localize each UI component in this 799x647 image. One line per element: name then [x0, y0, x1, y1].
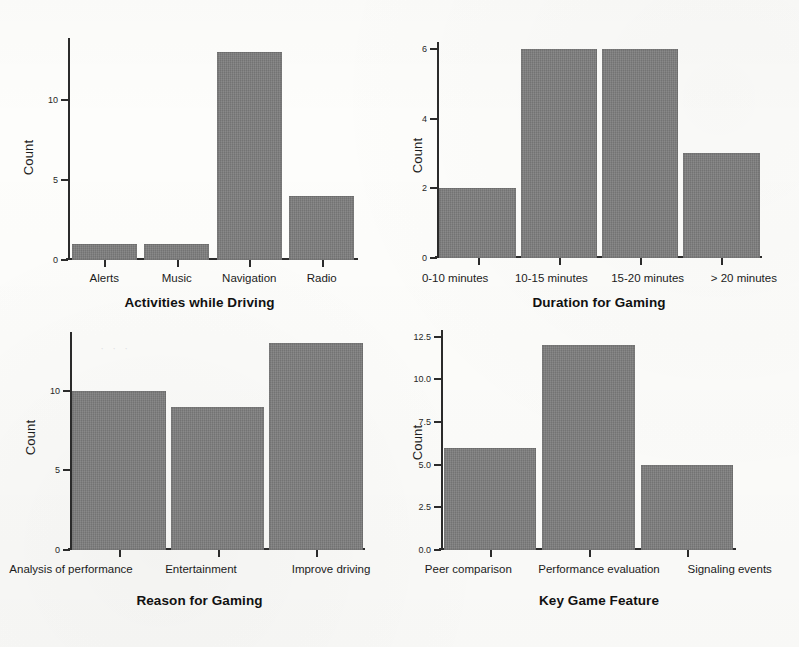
- x-category-label: Peer comparison: [403, 563, 534, 575]
- y-axis-tick-label: 4: [422, 114, 427, 124]
- x-category-label: Performance evaluation: [534, 563, 665, 575]
- x-axis-tick: [177, 260, 179, 267]
- x-axis-tick: [589, 550, 591, 557]
- y-axis-tick: [434, 336, 441, 338]
- bar: [521, 49, 597, 258]
- chart-title: Key Game Feature: [399, 593, 799, 608]
- y-axis-tick-label: 5.0: [418, 460, 431, 470]
- y-axis-label: Count: [23, 408, 38, 468]
- x-category-labels: 0-10 minutes10-15 minutes15-20 minutes> …: [407, 272, 792, 284]
- y-axis-tick: [434, 378, 441, 380]
- chart-title: Activities while Driving: [0, 295, 399, 310]
- bars-container: [441, 330, 736, 550]
- bar: [602, 49, 678, 258]
- y-axis-tick-label: 2.5: [418, 502, 431, 512]
- y-axis-tick-label: 6: [422, 44, 427, 54]
- y-axis-tick: [63, 390, 70, 392]
- bar: [269, 343, 362, 550]
- x-category-label: Improve driving: [266, 563, 396, 575]
- x-axis-tick: [316, 550, 318, 557]
- x-axis-tick: [721, 258, 723, 265]
- x-category-labels: Analysis of performanceEntertainmentImpr…: [6, 563, 396, 575]
- y-axis-tick: [61, 259, 68, 261]
- x-category-labels: AlertsMusicNavigationRadio: [68, 272, 358, 284]
- chart-panel-duration-for-gaming: Count 0246 0-10 minutes10-15 minutes15-2…: [399, 0, 799, 320]
- y-axis-tick-label: 2: [422, 183, 427, 193]
- y-axis-tick-label: 0: [55, 545, 60, 555]
- chart-figure-grid: Count 0510 AlertsMusicNavigationRadio Ac…: [0, 0, 799, 647]
- y-axis-tick-label: 0: [422, 253, 427, 263]
- y-axis-tick-label: 10.0: [413, 374, 431, 384]
- x-axis-tick: [640, 258, 642, 265]
- x-axis-tick: [218, 550, 220, 557]
- y-axis-tick: [430, 118, 437, 120]
- y-axis-label: Count: [21, 128, 36, 188]
- x-category-label: Alerts: [68, 272, 141, 284]
- chart-panel-reason-for-gaming: · · · Count 0510 Analysis of performance…: [0, 320, 399, 647]
- x-category-label: 10-15 minutes: [503, 272, 599, 284]
- x-axis-tick: [104, 260, 106, 267]
- y-axis-tick-label: 5: [55, 465, 60, 475]
- plot-area: 0246: [437, 42, 762, 258]
- x-axis-tick: [322, 260, 324, 267]
- y-axis-tick: [434, 506, 441, 508]
- y-axis-label: Count: [410, 126, 425, 186]
- y-axis-tick: [434, 464, 441, 466]
- y-axis-tick-label: 0: [53, 255, 58, 265]
- y-axis-tick: [61, 179, 68, 181]
- y-axis-tick-label: 7.5: [418, 417, 431, 427]
- bar: [217, 52, 282, 260]
- y-axis-tick: [61, 99, 68, 101]
- bar: [289, 196, 354, 260]
- chart-title: Duration for Gaming: [399, 295, 799, 310]
- y-axis-tick: [63, 469, 70, 471]
- plot-area: 0510: [70, 332, 365, 550]
- bar: [542, 345, 634, 550]
- y-axis-tick: [430, 257, 437, 259]
- y-axis-tick-label: 12.5: [413, 332, 431, 342]
- x-category-label: Analysis of performance: [6, 563, 136, 575]
- plot-area: 0510: [68, 38, 358, 260]
- y-axis-tick-label: 10: [48, 95, 58, 105]
- bar: [171, 407, 264, 550]
- chart-title: Reason for Gaming: [0, 593, 399, 608]
- y-axis-tick-label: 10: [50, 386, 60, 396]
- x-category-label: Signaling events: [664, 563, 795, 575]
- bars-container: [68, 38, 358, 260]
- y-axis-tick-label: 0.0: [418, 545, 431, 555]
- bar: [72, 391, 165, 550]
- y-axis-tick: [434, 549, 441, 551]
- y-axis-tick: [434, 421, 441, 423]
- x-axis-tick: [119, 550, 121, 557]
- chart-panel-key-game-feature: Count 0.02.55.07.510.012.5 Peer comparis…: [399, 320, 799, 647]
- x-category-label: 0-10 minutes: [407, 272, 503, 284]
- x-axis-tick: [559, 258, 561, 265]
- x-category-label: 15-20 minutes: [600, 272, 696, 284]
- chart-panel-activities-while-driving: Count 0510 AlertsMusicNavigationRadio Ac…: [0, 0, 399, 320]
- y-axis-tick: [430, 48, 437, 50]
- bars-container: [437, 42, 762, 258]
- x-category-label: Entertainment: [136, 563, 266, 575]
- x-axis-tick: [490, 550, 492, 557]
- bar: [439, 188, 515, 258]
- plot-area: 0.02.55.07.510.012.5: [441, 330, 736, 550]
- x-axis-tick: [478, 258, 480, 265]
- bar: [444, 448, 536, 550]
- bar: [683, 153, 759, 258]
- bar: [72, 244, 137, 260]
- y-axis-tick: [430, 187, 437, 189]
- bar: [144, 244, 209, 260]
- x-axis-tick: [687, 550, 689, 557]
- x-category-label: Radio: [286, 272, 359, 284]
- y-axis-tick: [63, 549, 70, 551]
- y-axis-tick-label: 5: [53, 175, 58, 185]
- x-axis-tick: [249, 260, 251, 267]
- x-category-label: Music: [141, 272, 214, 284]
- x-category-labels: Peer comparisonPerformance evaluationSig…: [403, 563, 795, 575]
- bars-container: [70, 332, 365, 550]
- bar: [641, 465, 733, 550]
- x-category-label: > 20 minutes: [696, 272, 792, 284]
- x-category-label: Navigation: [213, 272, 286, 284]
